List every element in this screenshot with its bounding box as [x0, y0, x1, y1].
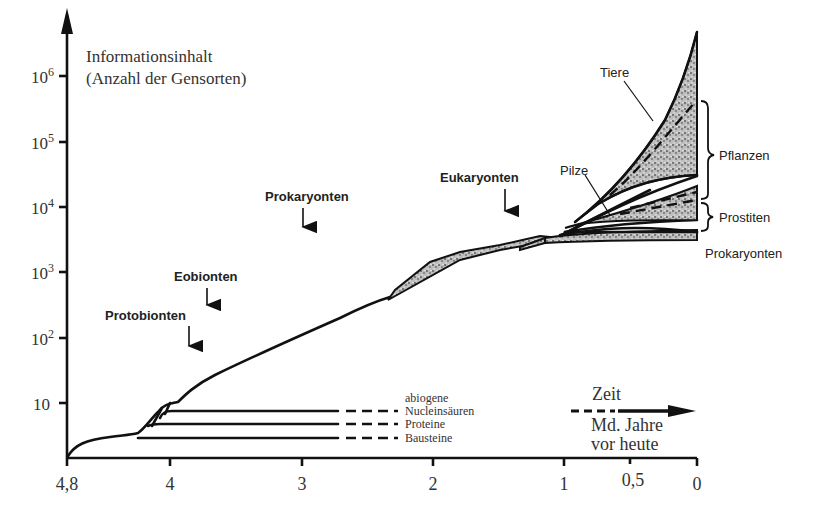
abiogenic-lines — [138, 403, 398, 438]
y-axis-label: Informationsinhalt — [86, 47, 213, 66]
time-unit-line2: vor heute — [591, 434, 658, 454]
label-tiere: Tiere — [600, 65, 629, 80]
tiere-leader — [624, 81, 653, 121]
y-axis-arrow-icon — [61, 8, 73, 34]
time-arrow: Zeit Md. Jahre vor heute — [571, 384, 696, 454]
x-tick-2: 2 — [429, 474, 438, 494]
x-tick-4: 4 — [166, 474, 175, 494]
x-tick-labels: 4,8 4 3 2 1 0,5 0 — [56, 470, 702, 494]
label-proteine: Proteine — [405, 417, 445, 431]
label-pilze: Pilze — [560, 163, 588, 178]
y-tick-100: 102 — [31, 327, 54, 349]
x-tick-1: 1 — [560, 474, 569, 494]
time-arrow-icon — [668, 405, 696, 417]
label-prokaryonten-stage: Prokaryonten — [265, 189, 349, 204]
label-prokaryonten-branch: Prokaryonten — [705, 246, 782, 261]
y-tick-10: 10 — [33, 395, 50, 414]
y-tick-labels: 10 102 103 104 105 106 — [31, 65, 54, 414]
y-tick-10000: 104 — [31, 196, 54, 218]
abiogenic-labels: abiogene Nucleinsäuren Proteine Baustein… — [405, 391, 474, 445]
y-axis-sublabel: (Anzahl der Gensorten) — [86, 69, 247, 88]
y-tick-1000000: 106 — [31, 65, 54, 87]
prostiten-bracket-icon — [701, 203, 713, 231]
y-tick-100000: 105 — [31, 131, 54, 153]
x-tick-0: 0 — [693, 474, 702, 494]
time-label: Zeit — [592, 384, 621, 404]
label-protobionten: Protobionten — [105, 308, 186, 323]
label-eobionten: Eobionten — [174, 269, 238, 284]
pflanzen-bracket-icon — [701, 101, 714, 199]
label-bausteine: Bausteine — [405, 431, 452, 445]
time-unit-line1: Md. Jahre — [591, 415, 663, 435]
x-tick-4-8: 4,8 — [56, 474, 79, 494]
label-prostiten: Prostiten — [719, 210, 770, 225]
label-abiogene: abiogene — [405, 391, 448, 405]
label-nucleinsaeuren: Nucleinsäuren — [405, 404, 474, 418]
y-axis — [59, 8, 73, 458]
x-tick-3: 3 — [298, 474, 307, 494]
evolution-information-chart: 10 102 103 104 105 106 Informationsinhal… — [0, 0, 820, 525]
label-pflanzen: Pflanzen — [719, 148, 770, 163]
label-eukaryonten: Eukaryonten — [440, 170, 519, 185]
y-tick-1000: 103 — [31, 261, 54, 283]
x-tick-0-5: 0,5 — [622, 470, 645, 490]
x-axis — [67, 458, 697, 466]
